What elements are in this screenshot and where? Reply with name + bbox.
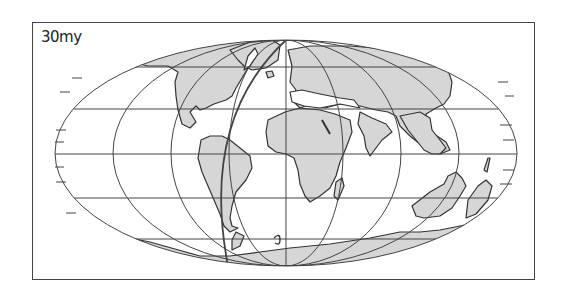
small-island-east bbox=[484, 158, 490, 172]
new-zealand-strip bbox=[466, 180, 492, 218]
island-small bbox=[266, 71, 274, 78]
small-island-icon bbox=[274, 235, 280, 244]
arabia bbox=[358, 112, 392, 156]
landmasses bbox=[60, 40, 520, 280]
antarctic-peninsula bbox=[232, 232, 244, 250]
paleogeographic-map bbox=[0, 0, 563, 295]
antarctica bbox=[60, 220, 520, 280]
australia bbox=[412, 172, 466, 218]
